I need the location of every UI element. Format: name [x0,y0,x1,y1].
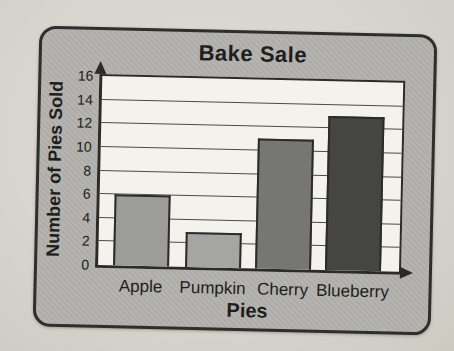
y-tick-label-10: 10 [46,137,92,156]
gridline-14 [102,99,403,107]
x-axis-arrow-icon [400,267,413,279]
y-axis-arrow-icon [94,61,106,74]
scanned-page-background: Bake Sale Number of Pies Sold 0246810121… [0,0,454,351]
bar-apple [113,194,171,266]
bar-cherry [255,139,314,270]
y-tick-label-6: 6 [44,184,90,203]
plot-area [95,74,405,275]
y-tick-label-4: 4 [44,207,90,226]
y-tick-label-8: 8 [45,160,91,179]
y-tick-label-12: 12 [46,113,92,132]
chart-card: Bake Sale Number of Pies Sold 0246810121… [33,26,438,336]
chart-title: Bake Sale [100,38,407,71]
bar-pumpkin [185,231,242,268]
bar-blueberry [325,117,384,272]
category-label-blueberry: Blueberry [307,281,397,303]
y-tick-label-14: 14 [47,89,93,108]
x-axis-category-labels: ApplePumpkinCherryBlueberry [42,29,434,38]
y-tick-label-2: 2 [43,231,89,250]
y-tick-label-16: 16 [47,66,93,85]
y-tick-label-0: 0 [43,255,89,274]
y-axis-tick-labels: 0246810121416 [42,29,434,38]
